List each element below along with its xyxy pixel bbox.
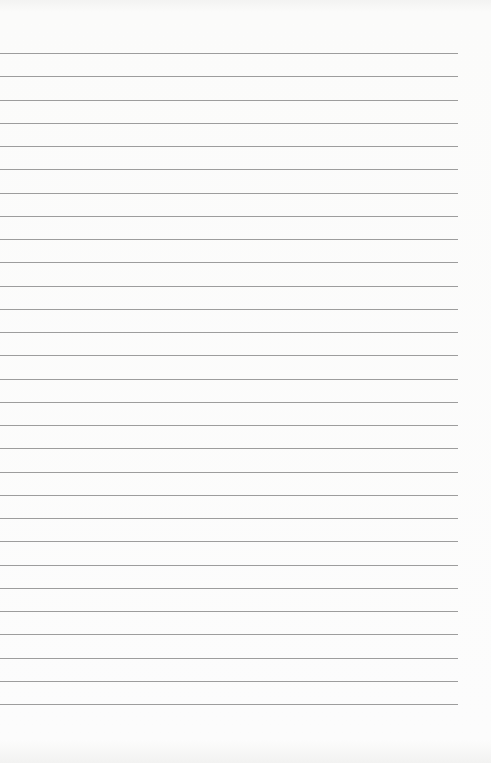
ruled-line	[0, 53, 458, 54]
ruled-line	[0, 216, 458, 217]
ruled-line	[0, 634, 458, 635]
ruled-line	[0, 611, 458, 612]
ruled-line	[0, 123, 458, 124]
ruled-line	[0, 541, 458, 542]
ruled-line	[0, 239, 458, 240]
ruled-line	[0, 495, 458, 496]
ruled-line	[0, 425, 458, 426]
ruled-line	[0, 355, 458, 356]
ruled-line	[0, 169, 458, 170]
ruled-line	[0, 472, 458, 473]
ruled-line	[0, 100, 458, 101]
ruled-line	[0, 518, 458, 519]
ruled-line	[0, 704, 458, 705]
ruled-line	[0, 146, 458, 147]
ruled-line	[0, 286, 458, 287]
ruled-line	[0, 309, 458, 310]
ruled-line	[0, 588, 458, 589]
ruled-line	[0, 565, 458, 566]
ruled-line	[0, 76, 458, 77]
ruled-line	[0, 193, 458, 194]
ruled-line	[0, 658, 458, 659]
ruled-line	[0, 379, 458, 380]
lined-paper-page	[0, 0, 491, 763]
ruled-line	[0, 402, 458, 403]
ruled-line	[0, 262, 458, 263]
ruled-line	[0, 448, 458, 449]
ruled-line	[0, 681, 458, 682]
ruled-line	[0, 332, 458, 333]
